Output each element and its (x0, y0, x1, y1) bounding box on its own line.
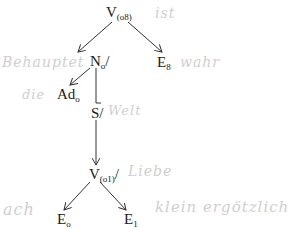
handwritten-note: ist (155, 6, 175, 20)
node-e8: E8 (157, 55, 171, 72)
node-label: N (90, 53, 101, 69)
edge-n0-ad0 (70, 68, 90, 85)
handwritten-note: Welt (108, 104, 141, 117)
node-v08: V(o8) (106, 5, 132, 22)
node-s: S/ (91, 106, 104, 121)
node-ad0: Ado (57, 87, 80, 104)
node-subscript: o (66, 219, 71, 229)
node-subscript: o (75, 94, 80, 104)
node-label: V (89, 166, 100, 182)
node-e0: Eo (57, 212, 71, 229)
handwritten-note: Liebe (128, 164, 172, 178)
node-e1: E1 (124, 212, 138, 229)
node-subscript: (o8) (117, 12, 132, 22)
node-subscript: (o1) (100, 174, 115, 184)
handwritten-note: Behauptet (2, 55, 84, 69)
edge-v01-e1 (100, 182, 126, 210)
node-label: E (124, 211, 133, 227)
handwritten-note: ach (3, 202, 35, 218)
node-v01: V(o1)/ (89, 167, 119, 184)
node-label: Ad (57, 86, 75, 102)
node-suffix: / (115, 166, 119, 182)
edge-v01-e0 (64, 182, 90, 210)
node-n0: No/ (90, 54, 110, 71)
node-subscript: 8 (166, 62, 171, 72)
handwritten-note: klein ergötzlich (155, 200, 289, 215)
handwritten-note: wahr (180, 55, 220, 69)
edge-v08-e8 (128, 22, 162, 52)
handwritten-note: die (22, 88, 45, 101)
node-subscript: 1 (133, 219, 138, 229)
tree-edges (0, 0, 303, 229)
node-suffix: / (99, 105, 103, 121)
node-suffix: / (105, 53, 109, 69)
node-label: E (157, 54, 166, 70)
edge-v08-n0 (78, 22, 112, 52)
node-label: V (106, 4, 117, 20)
node-label: E (57, 211, 66, 227)
